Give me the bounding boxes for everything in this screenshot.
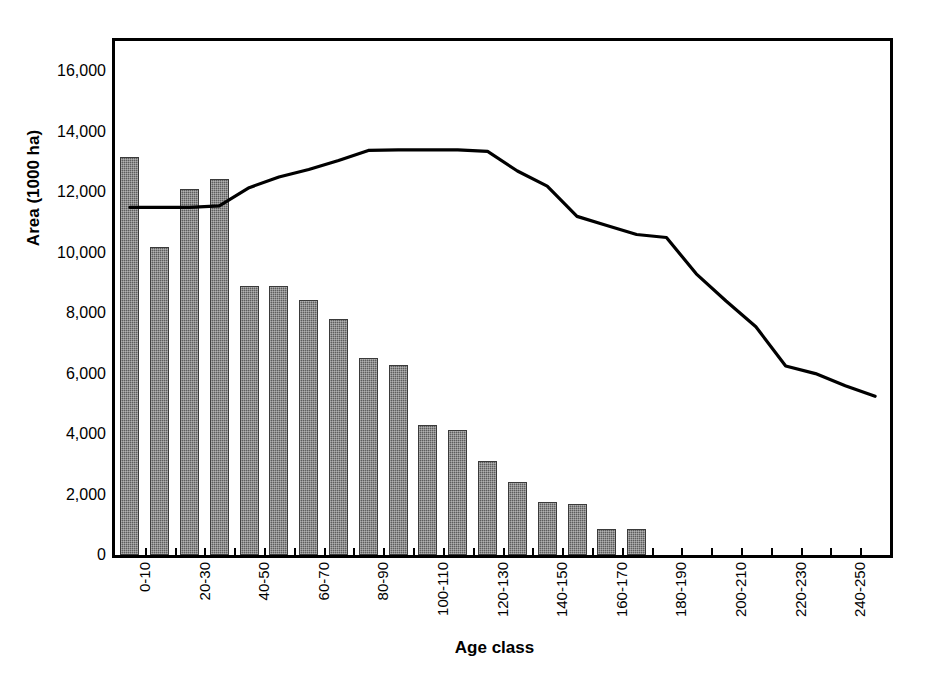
plot-area [115, 41, 890, 555]
x-axis-tick-label: 160-170 [613, 562, 630, 617]
x-axis-tick-label: 40-50 [255, 562, 272, 600]
x-axis-tick-label: 100-110 [434, 562, 451, 616]
line-series [115, 41, 890, 555]
y-axis-tick-label: 2,000 [32, 487, 106, 503]
y-axis-tick-label: 8,000 [32, 305, 106, 321]
y-axis-tick-label: 12,000 [32, 184, 106, 200]
line-series-path [130, 150, 875, 396]
x-axis-tick-label: 140-150 [553, 562, 570, 617]
x-axis-tick-label: 240-250 [851, 562, 868, 617]
x-axis-title: Age class [0, 638, 929, 658]
y-axis-tick-label: 14,000 [32, 124, 106, 140]
y-axis-tick-label: 16,000 [32, 63, 106, 79]
y-axis-tick-label: 4,000 [32, 426, 106, 442]
y-axis-tick-label: 0 [32, 547, 106, 563]
x-axis-tick-label: 0-10 [136, 562, 153, 592]
x-axis-tick-label: 120-130 [494, 562, 511, 617]
x-axis-tick-label: 60-70 [315, 562, 332, 600]
y-axis-tick-label: 6,000 [32, 366, 106, 382]
x-axis-tick-label: 220-230 [792, 562, 809, 617]
chart-figure: Area (1000 ha) 02,0004,0006,0008,00010,0… [0, 0, 929, 677]
y-axis-tick-label: 10,000 [32, 245, 106, 261]
x-axis-tick-label: 20-30 [196, 562, 213, 600]
x-axis-tick-label: 180-190 [672, 562, 689, 617]
y-axis-tick-labels: 02,0004,0006,0008,00010,00012,00014,0001… [30, 0, 106, 677]
x-axis-tick-label: 80-90 [374, 562, 391, 600]
x-axis-tick-label: 200-210 [732, 562, 749, 617]
x-axis-tick-labels: 0-1020-3040-5060-7080-90100-110120-13014… [115, 562, 890, 642]
